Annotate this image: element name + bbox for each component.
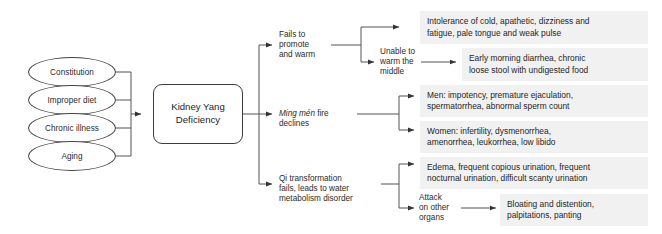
diagram-canvas: Constitution Improper diet Chronic illne… <box>0 0 662 234</box>
cause-label: Chronic illness <box>45 124 99 133</box>
cause-label: Improper diet <box>48 96 97 105</box>
mechanism-label-attack-on-other-organs: Attack on other organs <box>419 193 449 224</box>
cause-label: Constitution <box>50 68 94 77</box>
cause-ellipse-chronic-illness[interactable]: Chronic illness <box>28 113 116 143</box>
mechanism-label-fails-to-promote-and-warm: Fails to promote and warm <box>279 30 315 61</box>
symptom-box-organ-attack-symptoms: Bloating and distention, palpitations, p… <box>500 194 648 226</box>
cause-ellipse-constitution[interactable]: Constitution <box>28 57 116 87</box>
mechanism-label-ming-men-fire-declines: Ming mén fire declines <box>279 109 329 129</box>
symptom-box-men-reproductive: Men: impotency, premature ejaculation, s… <box>420 85 648 117</box>
mechanism-label-qi-transformation-fails: Qi transformation fails, leads to water … <box>279 174 353 205</box>
ming-men-italic: Ming mén <box>279 109 315 118</box>
mechanism-label-unable-to-warm-the-middle: Unable to warm the middle <box>380 47 415 78</box>
central-node-label: Kidney Yang Deficiency <box>171 101 225 126</box>
cause-ellipse-aging[interactable]: Aging <box>28 141 116 171</box>
cause-label: Aging <box>61 152 82 161</box>
symptom-box-water-metabolism: Edema, frequent copious urination, frequ… <box>420 157 648 189</box>
central-node-kidney-yang-deficiency[interactable]: Kidney Yang Deficiency <box>153 84 243 144</box>
cause-ellipse-improper-diet[interactable]: Improper diet <box>28 85 116 115</box>
symptom-box-early-morning-diarrhea: Early morning diarrhea, chronic loose st… <box>462 48 648 81</box>
symptom-box-cold-intolerance: Intolerance of cold, apathetic, dizzines… <box>420 11 648 44</box>
symptom-box-women-reproductive: Women: infertility, dysmenorrhea, amenor… <box>420 121 648 153</box>
